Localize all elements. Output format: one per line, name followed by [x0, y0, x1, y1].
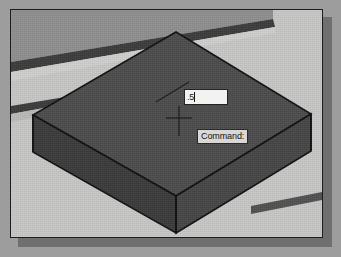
- command-tooltip-label: Command:: [201, 132, 244, 141]
- model-space-canvas[interactable]: [11, 10, 322, 237]
- dynamic-input-value: .5: [187, 93, 194, 102]
- command-tooltip[interactable]: Command:: [197, 129, 248, 144]
- dynamic-input-field[interactable]: .5: [184, 89, 228, 105]
- text-caret: [194, 92, 195, 102]
- cad-viewport-frame[interactable]: .5 Command:: [10, 9, 323, 238]
- screenshot-root: .5 Command:: [0, 0, 341, 257]
